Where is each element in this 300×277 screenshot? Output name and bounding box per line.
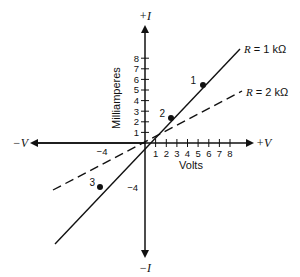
iv-characteristic-diagram: 1 2 3 4 5 6 7 8 1 2 3 4 5 6 7 8 Milliamp… [0, 0, 300, 277]
x-negative-label: −V [13, 136, 30, 150]
x-positive-label: +V [256, 136, 273, 150]
x-tick-8: 8 [227, 148, 232, 159]
point-2-label: 2 [159, 108, 165, 119]
point-2 [168, 115, 174, 121]
x-tick-5: 5 [195, 148, 200, 159]
point-3-label: 3 [89, 177, 95, 188]
y-tick-3: 3 [134, 106, 139, 117]
y-tick-6: 6 [134, 74, 139, 85]
y-tick-2: 2 [134, 116, 139, 127]
y-positive-label: +I [139, 9, 152, 23]
line-r-1k-label: R = 1 kΩ [243, 43, 286, 55]
y-tick-4: 4 [134, 95, 139, 106]
x-tick-4: 4 [185, 148, 190, 159]
y-tick-7: 7 [134, 63, 139, 74]
point-1 [200, 82, 206, 88]
line-r-2k-label: R = 2 kΩ [245, 86, 288, 98]
line-r-2k [53, 91, 242, 190]
y-tick-8: 8 [134, 53, 139, 64]
point-1-label: 1 [190, 75, 196, 86]
point-3 [97, 184, 103, 190]
x-axis-title: Volts [179, 159, 203, 171]
y-axis-title: Milliamperes [110, 67, 122, 129]
y-tick-5: 5 [134, 84, 139, 95]
x-tick-1: 1 [153, 148, 158, 159]
line-r-1k [55, 49, 240, 244]
x-tick-3: 3 [174, 148, 179, 159]
y-negative-label: −I [139, 261, 152, 275]
y-neg-4-label: −4 [127, 182, 138, 193]
x-neg-4-label: −4 [97, 146, 108, 157]
x-tick-2: 2 [164, 148, 169, 159]
x-tick-7: 7 [217, 148, 222, 159]
x-tick-6: 6 [206, 148, 211, 159]
y-tick-1: 1 [134, 127, 139, 138]
